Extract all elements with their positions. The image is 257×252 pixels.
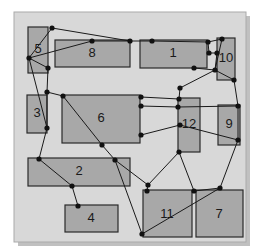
- region-6-label: 6: [97, 110, 104, 125]
- graph-node-n33: [144, 188, 149, 193]
- region-7-label: 7: [215, 206, 222, 221]
- region-10-label: 10: [219, 50, 233, 65]
- graph-node-n10: [45, 65, 50, 70]
- graph-node-n3: [127, 38, 132, 43]
- graph-node-n21: [44, 125, 49, 130]
- graph-node-n24: [138, 132, 143, 137]
- graph-node-n2: [89, 38, 94, 43]
- graph-node-n29: [112, 157, 117, 162]
- region-8-label: 8: [88, 45, 95, 60]
- graph-node-n35: [217, 185, 222, 190]
- graph-node-n22: [235, 103, 240, 108]
- graph-node-n14: [231, 77, 236, 82]
- graph-node-n1: [49, 25, 54, 30]
- region-2-label: 2: [75, 163, 82, 178]
- diagram-canvas-svg: 581103612924117: [0, 0, 257, 252]
- graph-node-n25: [235, 137, 240, 142]
- region-1-label: 1: [169, 45, 176, 60]
- graph-node-n27: [176, 149, 181, 154]
- region-4-label: 4: [87, 210, 94, 225]
- graph-node-n12: [212, 67, 217, 72]
- graph-node-n30: [69, 183, 74, 188]
- graph-node-n8: [206, 50, 211, 55]
- graph-node-n17: [138, 94, 143, 99]
- graph-node-n26: [99, 142, 104, 147]
- diagram-figure: 581103612924117: [0, 0, 257, 252]
- region-5-label: 5: [34, 41, 41, 56]
- graph-node-n6: [219, 36, 224, 41]
- region-12-label: 12: [182, 116, 196, 131]
- graph-node-n15: [177, 85, 182, 90]
- graph-node-n36: [139, 231, 144, 236]
- graph-node-n32: [75, 203, 80, 208]
- graph-node-n28: [36, 156, 41, 161]
- region-11-label: 11: [160, 206, 174, 221]
- graph-node-n7: [26, 55, 31, 60]
- graph-node-n34: [191, 188, 196, 193]
- graph-node-n16: [60, 93, 65, 98]
- graph-node-n18: [176, 96, 181, 101]
- region-9-label: 9: [225, 116, 232, 131]
- graph-node-n11: [191, 65, 196, 70]
- graph-node-n4: [149, 38, 154, 43]
- graph-node-n5: [205, 39, 210, 44]
- graph-node-n13: [44, 89, 49, 94]
- region-3-label: 3: [33, 105, 40, 120]
- graph-node-n20: [175, 104, 180, 109]
- graph-node-n31: [145, 182, 150, 187]
- graph-node-n19: [138, 103, 143, 108]
